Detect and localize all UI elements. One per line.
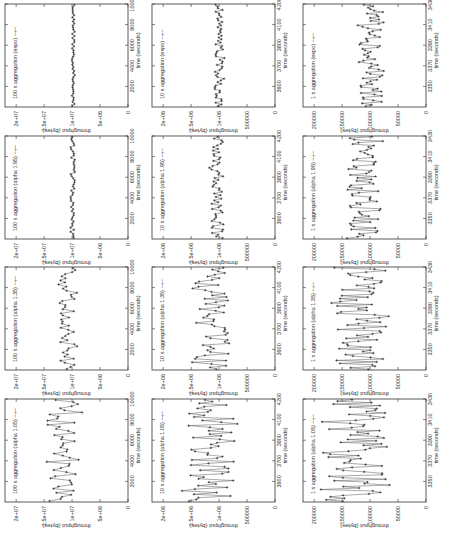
y-tick-label: 500000 xyxy=(244,374,250,392)
x-tick-label: 3430 xyxy=(427,0,433,10)
x-axis-label: time (seconds) xyxy=(433,295,439,331)
x-tick-label: 8000 xyxy=(129,413,135,425)
x-axis-label: time (seconds) xyxy=(282,427,288,463)
y-axis-label: throughput (bytes) xyxy=(42,128,91,134)
x-tick-label: 3410 xyxy=(427,18,433,30)
x-tick-label: 10000 xyxy=(129,391,135,406)
y-tick-label: 100000 xyxy=(367,111,373,129)
chart-panel-r3c1: 05e+061e+071.5e+072e+07throughput (bytes… xyxy=(5,259,141,397)
chart-panel-r3c2: 05000001e+061.5e+062e+06throughput (byte… xyxy=(152,261,288,397)
legend-label: 10 s aggregation (expo) −+− xyxy=(159,30,165,99)
x-tick-label: 4200 xyxy=(276,261,282,273)
y-tick-label: 1e+07 xyxy=(69,506,75,521)
x-axis-label: time (seconds) xyxy=(433,427,439,463)
y-tick-label: 50000 xyxy=(395,111,401,126)
legend-label: 100 s aggregation (alpha 1.05) −+− xyxy=(12,408,18,494)
x-axis-label: time (seconds) xyxy=(135,164,141,200)
caption-text xyxy=(444,0,459,554)
x-tick-label: 3410 xyxy=(427,281,433,293)
x-tick-label: 2000 xyxy=(129,475,135,487)
y-tick-label: 50000 xyxy=(395,243,401,258)
figure-canvas: 05e+061e+071.5e+072e+07throughput (bytes… xyxy=(0,0,459,554)
y-tick-label: 1e+06 xyxy=(216,374,222,389)
plot-frame xyxy=(5,136,128,239)
x-tick-label: 3430 xyxy=(427,261,433,273)
x-tick-label: 3350 xyxy=(427,212,433,224)
chart-panel-r2c1: 05e+061e+071.5e+072e+07throughput (bytes… xyxy=(5,128,141,266)
y-tick-label: 0 xyxy=(423,506,429,509)
y-tick-label: 50000 xyxy=(395,374,401,389)
y-tick-label: 2e+07 xyxy=(13,243,19,258)
y-tick-label: 0 xyxy=(125,374,131,377)
x-tick-label: 3430 xyxy=(427,130,433,142)
y-tick-label: 100000 xyxy=(367,374,373,392)
legend-label: 10 s aggregation (alpha 1.05) −+− xyxy=(159,411,165,494)
x-tick-label: 3430 xyxy=(427,393,433,405)
y-tick-label: 200000 xyxy=(311,243,317,261)
x-tick-label: 3350 xyxy=(427,343,433,355)
y-tick-label: 1e+06 xyxy=(216,506,222,521)
y-tick-label: 0 xyxy=(125,243,131,246)
x-tick-label: 10000 xyxy=(129,128,135,143)
x-tick-label: 4100 xyxy=(276,150,282,162)
x-tick-label: 3600 xyxy=(276,212,282,224)
y-tick-label: 5e+06 xyxy=(97,374,103,389)
y-axis-label: throughput (bytes) xyxy=(189,128,238,134)
x-tick-label: 8000 xyxy=(129,18,135,30)
x-axis-label: time (seconds) xyxy=(135,295,141,331)
legend-label: 100 s aggregation (expo) −+− xyxy=(12,27,18,99)
y-tick-label: 1e+06 xyxy=(216,243,222,258)
chart-panel-r1c1: 05e+061e+071.5e+072e+07throughput (bytes… xyxy=(5,0,141,134)
plot-frame xyxy=(303,4,426,107)
y-axis-label: throughput (bytes) xyxy=(340,128,389,134)
chart-panel-r4c1: 05e+061e+071.5e+072e+07throughput (bytes… xyxy=(5,391,141,529)
chart-panel-r2c3: 050000100000150000200000throughput (byte… xyxy=(303,130,439,266)
y-axis-label: throughput (bytes) xyxy=(189,260,238,266)
y-tick-label: 0 xyxy=(125,506,131,509)
legend-label: 10 s aggregation (alpha 1.95) −+− xyxy=(159,148,165,231)
y-tick-label: 500000 xyxy=(244,506,250,524)
y-tick-label: 0 xyxy=(272,374,278,377)
y-tick-label: 2e+06 xyxy=(160,374,166,389)
legend-label: 100 s aggregation (alpha 1.35) −+− xyxy=(12,276,18,362)
legend-label: 10 s aggregation (alpha 1.35) −+− xyxy=(159,279,165,362)
y-tick-label: 5e+06 xyxy=(97,506,103,521)
x-tick-label: 3600 xyxy=(276,343,282,355)
y-tick-label: 500000 xyxy=(244,111,250,129)
y-tick-label: 1e+07 xyxy=(69,243,75,258)
x-axis-label: time (seconds) xyxy=(282,295,288,331)
legend-label: 1 s aggregation (alpha 1.05) −+− xyxy=(310,414,316,494)
y-tick-label: 2e+06 xyxy=(160,506,166,521)
y-tick-label: 2e+06 xyxy=(160,243,166,258)
y-tick-label: 0 xyxy=(423,374,429,377)
x-tick-label: 2000 xyxy=(129,212,135,224)
x-axis-label: time (seconds) xyxy=(135,32,141,68)
y-tick-label: 2e+07 xyxy=(13,111,19,126)
x-axis-label: time (seconds) xyxy=(135,427,141,463)
y-tick-label: 100000 xyxy=(367,243,373,261)
y-tick-label: 150000 xyxy=(339,506,345,524)
x-tick-label: 3350 xyxy=(427,80,433,92)
x-tick-label: 3410 xyxy=(427,150,433,162)
y-tick-label: 0 xyxy=(272,111,278,114)
legend-label: 1 s aggregation (alpha 1.35) −+− xyxy=(310,282,316,362)
y-axis-label: throughput (bytes) xyxy=(189,523,238,529)
y-axis-label: throughput (bytes) xyxy=(340,260,389,266)
y-axis-label: throughput (bytes) xyxy=(42,260,91,266)
x-tick-label: 3350 xyxy=(427,475,433,487)
y-tick-label: 100000 xyxy=(367,506,373,524)
y-tick-label: 200000 xyxy=(311,506,317,524)
chart-panel-r1c2: 05000001e+061.5e+062e+06throughput (byte… xyxy=(152,0,288,134)
y-tick-label: 0 xyxy=(272,506,278,509)
y-tick-label: 1e+07 xyxy=(69,374,75,389)
y-tick-label: 150000 xyxy=(339,111,345,129)
plot-frame xyxy=(5,4,128,107)
x-tick-label: 10000 xyxy=(129,259,135,274)
plot-frame xyxy=(152,136,275,239)
y-tick-label: 50000 xyxy=(395,506,401,521)
y-tick-label: 150000 xyxy=(339,374,345,392)
chart-panel-r3c3: 050000100000150000200000throughput (byte… xyxy=(303,261,439,397)
y-axis-label: throughput (bytes) xyxy=(189,391,238,397)
legend-label: 1 s aggregation (alpha 1.95) −+− xyxy=(310,151,316,231)
x-tick-label: 4100 xyxy=(276,281,282,293)
